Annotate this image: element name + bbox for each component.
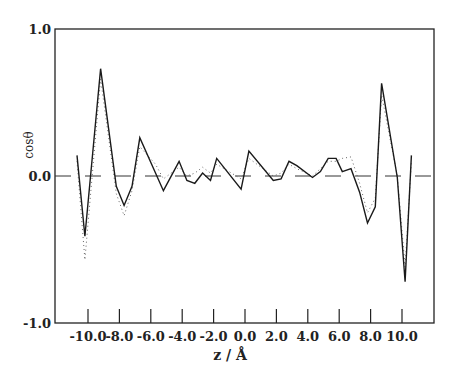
series-solid	[77, 69, 411, 282]
y-tick-label: -1.0	[23, 316, 51, 331]
x-axis-ticks: -10.0-8.0-6.0-4.0-2.00.02.04.06.08.010.0	[69, 309, 417, 344]
y-axis-ticks: -1.00.01.0	[23, 22, 51, 331]
y-tick-label: 0.0	[28, 169, 51, 184]
y-tick-label: 1.0	[28, 22, 51, 37]
x-tick-label: -2.0	[200, 329, 228, 344]
x-tick-label: 0.0	[234, 329, 257, 344]
y-axis-label: cosθ	[22, 131, 36, 158]
x-tick-label: -8.0	[105, 329, 133, 344]
x-tick-label: 4.0	[296, 329, 319, 344]
x-axis-label: z / Å	[213, 346, 248, 363]
x-tick-label: 10.0	[386, 329, 418, 344]
x-tick-label: -6.0	[137, 329, 165, 344]
x-tick-label: 8.0	[359, 329, 382, 344]
x-tick-label: -4.0	[168, 329, 196, 344]
x-tick-label: 2.0	[265, 329, 288, 344]
chart: -10.0-8.0-6.0-4.0-2.00.02.04.06.08.010.0…	[0, 0, 454, 385]
x-tick-label: -10.0	[69, 329, 106, 344]
x-tick-label: 6.0	[328, 329, 351, 344]
